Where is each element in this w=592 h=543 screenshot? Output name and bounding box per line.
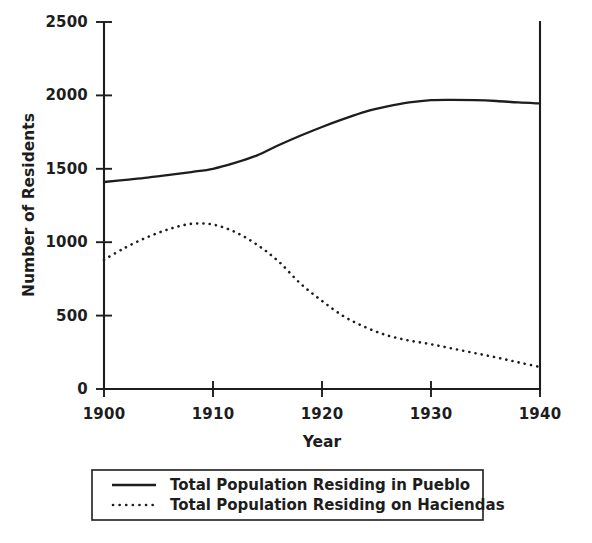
y-tick-label: 500 bbox=[56, 307, 88, 325]
y-tick-label: 1500 bbox=[45, 160, 88, 178]
x-axis-group: 19001910192019301940 Year bbox=[83, 22, 562, 451]
y-axis-title: Number of Residents bbox=[20, 113, 38, 297]
legend: Total Population Residing in Pueblo Tota… bbox=[92, 470, 505, 520]
x-tick-label: 1940 bbox=[519, 405, 562, 423]
y-tick-label: 2500 bbox=[45, 13, 88, 31]
line-chart-svg: 05001000150020002500 Number of Residents… bbox=[0, 0, 592, 543]
x-tick-label: 1900 bbox=[83, 405, 126, 423]
y-axis-tick-labels: 05001000150020002500 bbox=[45, 13, 88, 398]
x-tick-label: 1920 bbox=[301, 405, 344, 423]
x-tick-label: 1910 bbox=[192, 405, 235, 423]
x-axis-tick-labels: 19001910192019301940 bbox=[83, 405, 562, 423]
y-tick-label: 0 bbox=[77, 380, 88, 398]
legend-label-haciendas: Total Population Residing on Haciendas bbox=[170, 496, 505, 514]
y-axis-group: 05001000150020002500 Number of Residents bbox=[20, 13, 112, 398]
y-tick-label: 1000 bbox=[45, 233, 88, 251]
series-line-pueblo bbox=[104, 100, 540, 182]
y-tick-label: 2000 bbox=[45, 86, 88, 104]
x-axis-title: Year bbox=[302, 433, 342, 451]
x-tick-label: 1930 bbox=[410, 405, 453, 423]
series-group bbox=[104, 100, 540, 367]
series-line-haciendas bbox=[104, 223, 540, 367]
legend-label-pueblo: Total Population Residing in Pueblo bbox=[170, 476, 470, 494]
chart-figure: 05001000150020002500 Number of Residents… bbox=[0, 0, 592, 543]
